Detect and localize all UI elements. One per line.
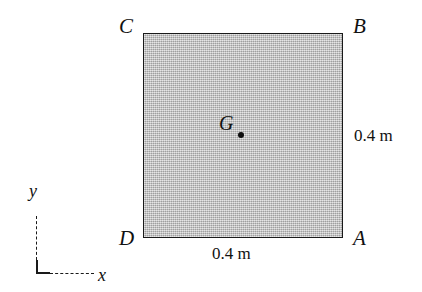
axis-x-dashed-line — [50, 273, 94, 274]
mechanics-figure: C B D A G 0.4 m 0.4 m y x — [0, 0, 422, 292]
axis-label-x: x — [98, 266, 106, 284]
dimension-label-bottom-side: 0.4 m — [212, 245, 251, 262]
coordinate-axis-indicator: y x — [28, 186, 123, 274]
axis-corner-horizontal-stub — [36, 272, 50, 274]
corner-label-B: B — [353, 16, 366, 37]
centroid-dot-marker — [238, 132, 244, 138]
corner-label-C: C — [119, 16, 133, 37]
corner-label-A: A — [353, 228, 366, 249]
axis-label-y: y — [29, 182, 37, 200]
dimension-label-right-side: 0.4 m — [354, 127, 393, 144]
axis-y-dashed-line — [36, 216, 37, 260]
centroid-label-G: G — [219, 113, 233, 133]
